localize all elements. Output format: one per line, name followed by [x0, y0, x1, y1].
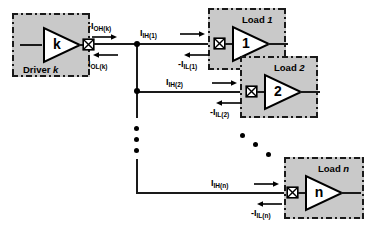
- load-1-iil-subscript: IL(1): [184, 63, 198, 70]
- driver-symbol-text: k: [42, 36, 72, 52]
- load-n-iih-subscript: IH(n): [214, 182, 229, 189]
- load-1-output-wire: [268, 43, 288, 45]
- vertical-bus-upper: [136, 43, 138, 118]
- bus-wire-to-load1: [93, 43, 220, 45]
- load-2-symbol-text: 2: [263, 83, 293, 99]
- load-2-iih-label: IIH(2): [166, 78, 183, 88]
- driver-ioh-subscript: OH(k): [94, 25, 112, 32]
- load-2-output-wire: [300, 91, 320, 93]
- load-2-block-label: Load 2: [274, 62, 305, 73]
- load-2-iih-subscript: IH(2): [169, 81, 183, 88]
- driver-iol-label: IOL(k): [88, 60, 108, 70]
- load-1-label-prefix: Load: [242, 14, 265, 25]
- load-1-block-label: Load 1: [242, 14, 273, 25]
- load-2-iih-arrow-right-icon: [212, 79, 238, 87]
- bus-wire-to-load2: [136, 91, 252, 93]
- load-n-iil-label: -IIL(n): [251, 209, 271, 219]
- diagonal-ellipsis-icon-dot3: [266, 152, 271, 157]
- vertical-ellipsis-icon-dot2: [134, 137, 139, 142]
- load-n-iil-subscript: IL(n): [257, 212, 271, 219]
- driver-block-label: Driver k: [23, 64, 58, 75]
- junction-dot-icon-load2: [134, 88, 140, 94]
- junction-dot-icon-load1: [134, 41, 140, 47]
- load-1-iil-label: -IIL(1): [178, 60, 197, 70]
- driver-iol-arrow-left-icon: [92, 51, 118, 59]
- vertical-ellipsis-icon-dot1: [134, 126, 139, 131]
- load-n-iil-arrow-left-icon: [256, 200, 282, 208]
- driver-ioh-arrow-right-icon: [92, 33, 118, 41]
- load-2-iil-subscript: IL(2): [216, 111, 230, 118]
- vertical-ellipsis-icon-dot3: [134, 148, 139, 153]
- load-n-label-index: n: [343, 163, 349, 174]
- driver-label-prefix: Driver: [23, 64, 50, 75]
- diagonal-ellipsis-icon-dot2: [253, 142, 258, 147]
- load-1-symbol-text: 1: [231, 35, 261, 51]
- driver-ioh-label: -IOH(k): [88, 22, 111, 32]
- load-n-output-wire: [341, 192, 361, 194]
- driver-input-wire: [20, 44, 42, 46]
- load-1-iih-arrow-right-icon: [180, 30, 206, 38]
- driver-iol-subscript: OL(k): [91, 63, 108, 70]
- load-n-iih-arrow-right-icon: [254, 180, 280, 188]
- vertical-bus-lower: [136, 159, 138, 194]
- load-1-iih-subscript: IH(1): [143, 32, 157, 39]
- load-n-label-prefix: Load: [318, 163, 341, 174]
- load-n-block-label: Load n: [318, 163, 349, 174]
- load-1-label-index: 1: [267, 14, 272, 25]
- load-1-iih-label: IIH(1): [140, 29, 157, 39]
- load-2-label-index: 2: [299, 62, 304, 73]
- bus-wire-to-loadn: [136, 192, 290, 194]
- load-n-iih-label: IIH(n): [211, 179, 228, 189]
- load-1-iil-arrow-left-icon: [183, 51, 209, 59]
- circuit-diagram-canvas: k Driver k -IOH(k) IOL(k): [0, 0, 367, 230]
- diagonal-ellipsis-icon-dot1: [240, 133, 245, 138]
- load-2-label-prefix: Load: [274, 62, 297, 73]
- load-n-symbol-text: n: [304, 184, 334, 200]
- load-2-iil-label: -IIL(2): [210, 108, 229, 118]
- load-2-iil-arrow-left-icon: [215, 99, 241, 107]
- driver-label-index: k: [53, 64, 58, 75]
